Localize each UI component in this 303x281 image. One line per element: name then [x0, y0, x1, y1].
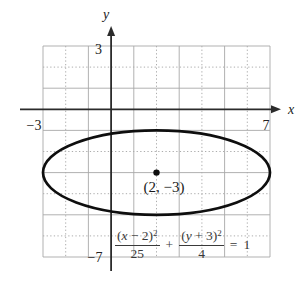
equals-sign: =: [230, 237, 238, 253]
y-term-exponent: 2: [217, 228, 222, 238]
ellipse-equation: (x − 2)2 25 + (y + 3)2 4 = 1: [115, 229, 250, 261]
fraction-y-term: (y + 3)2 4: [179, 229, 224, 261]
x-axis-label: x: [287, 102, 295, 117]
equation-rhs: 1: [243, 237, 250, 253]
x-term-rest: − 2): [128, 228, 154, 243]
fraction-x-numerator: (x − 2)2: [115, 229, 160, 246]
fraction-y-denominator: 4: [198, 246, 205, 262]
x-term-exponent: 2: [153, 228, 158, 238]
fraction-x-term: (x − 2)2 25: [115, 229, 160, 261]
fraction-x-denominator: 25: [131, 246, 145, 262]
x-max-tick-label: 7: [263, 118, 270, 133]
center-point-label: (2, −3): [144, 179, 185, 196]
y-axis: [107, 26, 115, 271]
plus-operator: +: [166, 237, 174, 253]
x-min-tick-label: −3: [27, 118, 42, 133]
fraction-y-numerator: (y + 3)2: [179, 229, 224, 246]
y-term-rest: + 3): [192, 228, 218, 243]
grid-dotted-lines: [43, 46, 270, 257]
ellipse-graph-figure: y x 3 −3 7 −7 (2, −3) (x − 2)2 25 + (y +…: [0, 0, 303, 281]
y-max-tick-label: 3: [95, 42, 102, 57]
y-min-tick-label: −7: [88, 250, 103, 265]
center-point: [153, 169, 159, 175]
y-axis-arrow-icon: [107, 26, 115, 36]
x-axis: [20, 105, 281, 113]
x-axis-arrow-icon: [271, 105, 281, 113]
grid: [43, 46, 270, 257]
y-axis-label: y: [101, 7, 110, 22]
